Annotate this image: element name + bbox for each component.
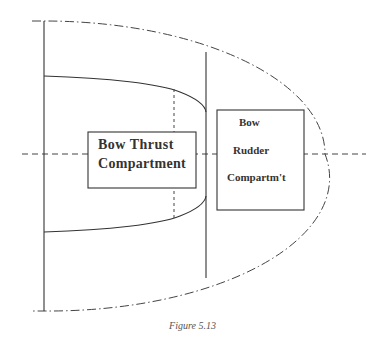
bow-thrust-label-line1: Bow Thrust (98, 137, 174, 153)
bow-rudder-label-line2: Rudder (233, 144, 269, 156)
inner-boundary-upper (44, 76, 206, 112)
figure-caption: Figure 5.13 (0, 320, 385, 331)
bow-rudder-compartment-box (217, 110, 304, 210)
inner-boundary-lower (44, 196, 206, 232)
diagram-canvas (0, 0, 385, 347)
bow-rudder-label-line3: Compartm't (227, 171, 286, 183)
bow-rudder-label-line1: Bow (239, 116, 260, 128)
bow-thrust-label-line2: Compartment (98, 156, 186, 172)
bow-compartments-diagram: Bow Thrust Compartment Bow Rudder Compar… (0, 0, 385, 347)
